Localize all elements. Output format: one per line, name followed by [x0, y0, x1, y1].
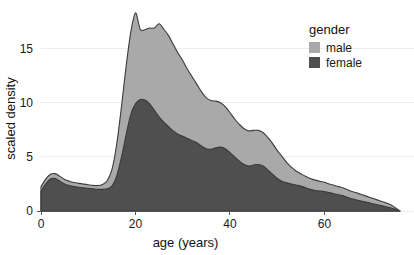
x-tick-label-40: 40 [223, 217, 237, 231]
y-tick-label-10: 10 [20, 96, 34, 110]
x-tick-label-0: 0 [38, 217, 45, 231]
x-axis-title: age (years) [153, 235, 219, 250]
legend-title: gender [309, 22, 350, 37]
legend-label-female[interactable]: female [326, 56, 362, 70]
y-tick-label-5: 5 [26, 150, 33, 164]
legend-label-male[interactable]: male [326, 41, 352, 55]
x-tick-label-60: 60 [318, 217, 332, 231]
x-tick-label-20: 20 [129, 217, 143, 231]
y-tick-label-0: 0 [26, 204, 33, 218]
legend-swatch-female[interactable] [309, 57, 320, 68]
y-axis-title: scaled density [3, 77, 18, 160]
y-tick-label-15: 15 [20, 42, 34, 56]
legend-swatch-male[interactable] [309, 42, 320, 53]
density-chart: 0204060 051015 age (years) scaled densit… [0, 0, 414, 255]
chart-canvas: 0204060 051015 age (years) scaled densit… [0, 0, 414, 255]
